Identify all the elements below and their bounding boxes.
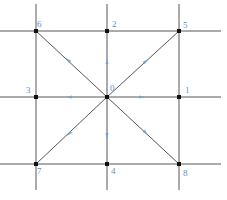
node-label: 4 (111, 167, 116, 176)
lattice-node (34, 29, 38, 33)
node-label: 2 (112, 20, 117, 29)
node-label: 6 (37, 20, 42, 29)
node-label: 5 (183, 21, 188, 30)
lattice-node (105, 29, 109, 33)
diagonal-line (36, 31, 107, 97)
node-label: 3 (26, 86, 31, 95)
diagonal-line (107, 97, 179, 164)
diagonal-line (36, 97, 107, 164)
grid-lines (0, 4, 221, 190)
arrow-icon (139, 95, 145, 98)
node-label: 8 (183, 169, 188, 178)
node-label: 7 (37, 167, 42, 176)
diagonal-line (107, 31, 179, 97)
arrow-icon (105, 58, 108, 64)
arrow-icon (66, 131, 73, 137)
arrow-icon (66, 95, 72, 98)
lattice-node (177, 95, 181, 99)
lattice-node (34, 95, 38, 99)
lattice-node (177, 162, 181, 166)
lattice-node (105, 162, 109, 166)
lattice-node (105, 95, 109, 99)
lattice-node (177, 29, 181, 33)
node-label: 0 (110, 84, 115, 93)
node-label: 1 (185, 86, 190, 95)
arrow-icon (65, 57, 72, 63)
arrow-icon (105, 133, 108, 139)
